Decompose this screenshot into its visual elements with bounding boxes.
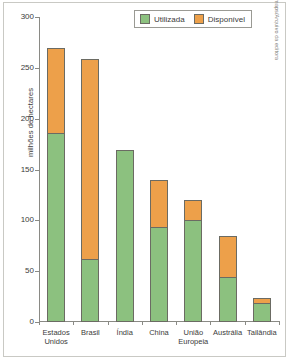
bar-segment-disponivel[interactable] — [150, 180, 168, 228]
x-axis-tickmark — [279, 321, 280, 325]
bar-segment-disponivel[interactable] — [184, 200, 202, 220]
legend-swatch-used-icon — [140, 14, 150, 24]
bar-segment-utilizada[interactable] — [219, 277, 237, 322]
x-axis-tickmark — [39, 321, 40, 325]
x-axis-label-4: China — [142, 328, 176, 337]
bar-segment-disponivel[interactable] — [219, 236, 237, 278]
bar-stack — [150, 180, 168, 322]
bar-stack — [81, 59, 99, 322]
x-axis-tickmark — [176, 321, 177, 325]
bar-group[interactable] — [184, 17, 202, 322]
bar-stack — [47, 48, 65, 322]
x-axis-tickmark — [142, 321, 143, 325]
bar-stack — [116, 150, 134, 322]
x-axis-label-7: Tailândia — [245, 328, 279, 337]
bar-segment-utilizada[interactable] — [253, 303, 271, 322]
y-axis-tick-300: 300 — [8, 12, 34, 21]
y-axis-tick-labels: 050100150200250300 — [8, 0, 34, 361]
y-axis-tick-200: 200 — [8, 114, 34, 123]
x-axis-label-1: Estados Unidos — [39, 328, 73, 346]
bar-group[interactable] — [47, 17, 65, 322]
legend-swatch-available-icon — [194, 14, 204, 24]
bar-stack — [253, 298, 271, 322]
bar-group[interactable] — [116, 17, 134, 322]
legend-label-disponivel: Disponível — [208, 15, 245, 24]
y-axis-tick-0: 0 — [8, 317, 34, 326]
legend-entry-disponivel[interactable]: Disponível — [194, 14, 245, 24]
chart-legend: Utilizada Disponível — [134, 10, 252, 28]
y-axis-tickmark — [35, 271, 39, 272]
x-axis-label-2: Brasil — [73, 328, 107, 337]
bar-group[interactable] — [253, 17, 271, 322]
y-axis-tickmark — [35, 119, 39, 120]
legend-entry-utilizada[interactable]: Utilizada — [140, 14, 185, 24]
y-axis-tickmark — [35, 68, 39, 69]
x-axis-tickmark — [210, 321, 211, 325]
bar-group[interactable] — [81, 17, 99, 322]
y-axis-tickmark — [35, 170, 39, 171]
bar-segment-utilizada[interactable] — [116, 150, 134, 322]
y-axis-tick-100: 100 — [8, 215, 34, 224]
bar-stack — [219, 236, 237, 322]
y-axis-tickmark — [35, 17, 39, 18]
x-axis-label-5: União Europeia — [176, 328, 210, 346]
x-axis-tickmark — [73, 321, 74, 325]
x-axis-tickmark — [245, 321, 246, 325]
bar-segment-disponivel[interactable] — [47, 48, 65, 133]
bar-segment-utilizada[interactable] — [81, 259, 99, 322]
chart-figure: milhões de hectares 050100150200250300 U… — [0, 0, 289, 361]
bar-group[interactable] — [219, 17, 237, 322]
bar-group[interactable] — [150, 17, 168, 322]
y-axis-tick-150: 150 — [8, 165, 34, 174]
y-axis-tick-50: 50 — [8, 266, 34, 275]
plot-area — [39, 17, 279, 322]
y-axis-tickmark — [35, 220, 39, 221]
x-axis-label-6: Austrália — [210, 328, 244, 337]
x-axis-label-3: Índia — [108, 328, 142, 337]
image-credit: Allmaps/Arquivo da editora — [274, 0, 280, 109]
y-axis-tick-250: 250 — [8, 63, 34, 72]
bar-segment-utilizada[interactable] — [47, 133, 65, 322]
bar-segment-utilizada[interactable] — [150, 227, 168, 322]
bar-stack — [184, 200, 202, 322]
bar-segment-disponivel[interactable] — [81, 59, 99, 259]
x-axis-tickmark — [108, 321, 109, 325]
bar-segment-utilizada[interactable] — [184, 220, 202, 322]
legend-label-utilizada: Utilizada — [154, 15, 185, 24]
